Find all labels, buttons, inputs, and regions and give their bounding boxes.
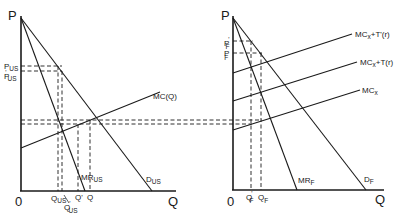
demand-f-label: DF	[364, 175, 374, 185]
demand-curve-us	[21, 18, 152, 191]
demand-us-label: DUS	[146, 175, 161, 185]
mc-plus-t-label: MCx+T(r)	[360, 58, 394, 68]
marginal-revenue-f-label: MRF	[298, 176, 314, 186]
right-x-axis-label: Q	[375, 192, 385, 207]
quantity-us-prime-label: Q'US	[64, 200, 78, 214]
left-panel-us-market: P 0 Q PUS P'US MC(Q) MRUS DUS QUS Q'US Q…	[4, 8, 178, 214]
mc-plus-t-prime-label: MCx+T'(r)	[355, 30, 390, 40]
left-origin-label: 0	[15, 194, 22, 209]
marginal-revenue-curve-foreign	[233, 18, 297, 190]
marginal-revenue-curve-us	[21, 18, 85, 191]
price-f-label: PF	[224, 49, 229, 61]
price-f-prime-label: P'F	[224, 36, 230, 50]
marginal-revenue-us-label: MRUS	[81, 173, 103, 183]
mc-export-curve	[233, 90, 360, 130]
quantity-total-prime-label: Q'	[75, 193, 83, 202]
mc-export-label: MCx	[362, 86, 378, 96]
demand-curve-foreign	[233, 18, 366, 190]
quantity-f-prime-label: Q'F	[246, 190, 253, 204]
quantity-f-label: QF	[258, 193, 268, 204]
right-origin-label: 0	[227, 194, 234, 209]
right-y-axis-label: P	[221, 8, 230, 23]
left-x-axis-label: Q	[168, 194, 178, 209]
quantity-total-label: Q	[87, 193, 93, 202]
right-panel-foreign-market: P 0 Q P'F PF MCx+T'(r) MCx+T(r) MCx MRF …	[221, 8, 394, 209]
economics-diagram: P 0 Q PUS P'US MC(Q) MRUS DUS QUS Q'US Q…	[0, 0, 401, 223]
left-y-axis-label: P	[8, 8, 17, 23]
marginal-cost-label: MC(Q)	[153, 92, 177, 101]
